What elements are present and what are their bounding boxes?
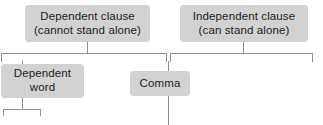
node-dependent-clause: Dependent clause (cannot stand alone) [25, 5, 150, 42]
node-comma: Comma [130, 71, 190, 96]
sentence-structure-diagram: Dependent clause (cannot stand alone) In… [0, 0, 323, 125]
bracket-dependent-clause [1, 53, 167, 62]
node-dependent-word: Dependent word [1, 64, 84, 98]
node-dependent-word-line2: word [30, 81, 55, 95]
connector-dependent-word-stem-down [22, 98, 23, 109]
bracket-dependent-word [3, 109, 41, 116]
node-independent-clause-line2: (can stand alone) [199, 24, 290, 38]
node-dependent-clause-line2: (cannot stand alone) [34, 24, 141, 38]
node-dependent-word-line1: Dependent [14, 67, 71, 81]
node-independent-clause-line1: Independent clause [193, 10, 295, 24]
bracket-independent-clause [170, 53, 313, 62]
node-independent-clause: Independent clause (can stand alone) [180, 5, 308, 42]
node-comma-line1: Comma [140, 77, 181, 91]
node-dependent-clause-line1: Dependent clause [40, 10, 135, 24]
connector-comma-stem-down [168, 96, 169, 125]
